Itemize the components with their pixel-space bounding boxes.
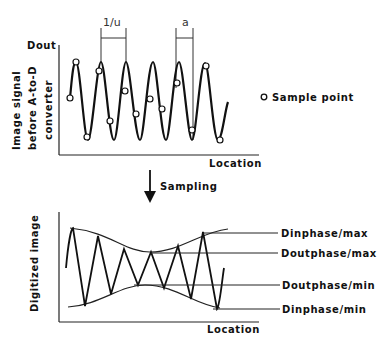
annotation-dinphase-min: Dinphase/min — [282, 304, 366, 315]
legend-label: Sample point — [272, 92, 354, 103]
top-y-axis-top-label: Dout — [27, 40, 56, 51]
top-plot: Dout Image signal before A-to-D converte… — [11, 16, 354, 169]
svg-text:Image signal: Image signal — [11, 71, 22, 150]
legend: Sample point — [261, 92, 354, 103]
svg-text:before A-to-D: before A-to-D — [27, 66, 38, 150]
down-arrow-icon — [144, 191, 156, 203]
annotation-doutphase-max: Doutphase/max — [281, 248, 377, 259]
top-x-axis-label: Location — [209, 158, 262, 169]
lower-envelope — [68, 285, 220, 308]
bottom-x-axis-label: Location — [207, 324, 260, 335]
svg-text:converter: converter — [43, 80, 54, 140]
top-y-axis-label: Image signal before A-to-D converter — [11, 66, 54, 150]
diagram-canvas: Dout Image signal before A-to-D converte… — [0, 0, 391, 348]
svg-text:Digitized image: Digitized image — [29, 215, 40, 312]
period-label: 1/u — [103, 16, 121, 29]
digitized-signal — [66, 228, 224, 309]
spacing-label: a — [182, 16, 189, 29]
bottom-plot: Digitized image Location Dinphase/max Do… — [29, 212, 377, 335]
bottom-y-axis-label: Digitized image — [29, 215, 40, 312]
annotation-dinphase-max: Dinphase/max — [281, 228, 368, 239]
sampling-label: Sampling — [160, 181, 217, 192]
sample-point-marker-icon — [261, 94, 267, 100]
sampling-arrow: Sampling — [144, 170, 217, 203]
annotation-doutphase-min: Doutphase/min — [282, 280, 375, 291]
